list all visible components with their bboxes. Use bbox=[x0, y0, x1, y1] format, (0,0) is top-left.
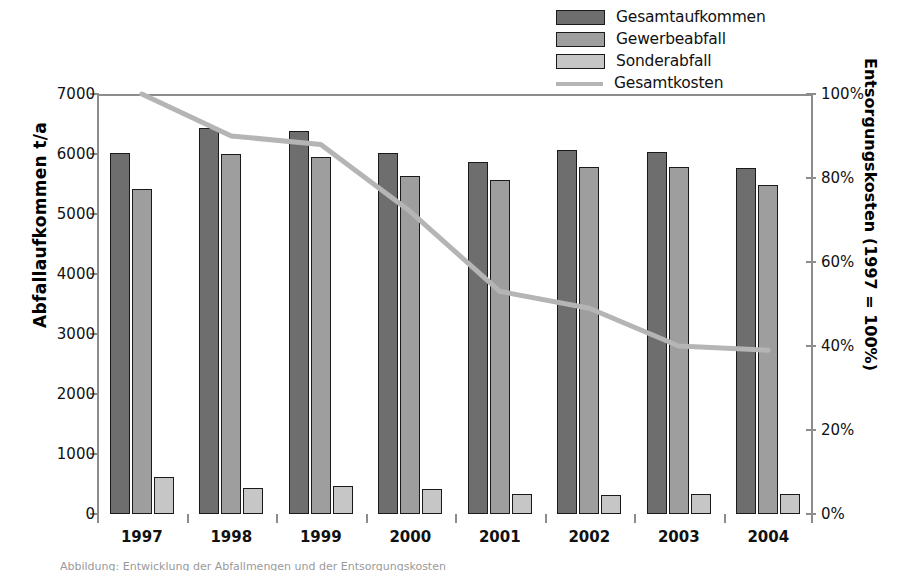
legend-item-label: Gewerbeabfall bbox=[616, 30, 726, 48]
legend-line-icon bbox=[556, 77, 603, 90]
x-tick-label: 2002 bbox=[544, 528, 634, 546]
y-tick-label-right: 80% bbox=[821, 169, 891, 187]
x-tick-label: 2003 bbox=[634, 528, 724, 546]
x-tick-label: 2004 bbox=[723, 528, 813, 546]
legend-item-label: Sonderabfall bbox=[616, 52, 711, 70]
y-tick-label-right: 100% bbox=[821, 85, 891, 103]
y-tick-label-left: 6000 bbox=[25, 145, 95, 163]
x-tick-label: 2000 bbox=[365, 528, 455, 546]
figure-caption: Abbildung: Entwicklung der Abfallmengen … bbox=[60, 560, 860, 571]
legend-item-label: Gesamtkosten bbox=[614, 74, 723, 92]
y-tick-label-left: 2000 bbox=[25, 385, 95, 403]
legend-swatch-icon bbox=[556, 54, 605, 69]
x-tick-label: 1998 bbox=[186, 528, 276, 546]
y-tick-label-right: 0% bbox=[821, 505, 891, 523]
chart-legend: Gesamtaufkommen Gewerbeabfall Sonderabfa… bbox=[556, 6, 856, 94]
legend-item-sonderabfall: Sonderabfall bbox=[556, 50, 856, 72]
y-tick-label-left: 7000 bbox=[25, 85, 95, 103]
x-tick-label: 1999 bbox=[276, 528, 366, 546]
y-tick-label-right: 60% bbox=[821, 253, 891, 271]
y-tick-label-left: 3000 bbox=[25, 325, 95, 343]
legend-item-gesamtkosten: Gesamtkosten bbox=[556, 72, 856, 94]
legend-item-gesamtaufkommen: Gesamtaufkommen bbox=[556, 6, 856, 28]
legend-item-gewerbeabfall: Gewerbeabfall bbox=[556, 28, 856, 50]
x-tick-label: 2001 bbox=[455, 528, 545, 546]
x-tick-label: 1997 bbox=[97, 528, 187, 546]
legend-item-label: Gesamtaufkommen bbox=[616, 8, 766, 26]
y-tick-label-left: 4000 bbox=[25, 265, 95, 283]
y-tick-label-right: 20% bbox=[821, 421, 891, 439]
gesamtkosten-line-path bbox=[142, 94, 769, 350]
y-tick-label-left: 5000 bbox=[25, 205, 95, 223]
line-series-gesamtkosten bbox=[97, 94, 813, 516]
chart-page: Gesamtaufkommen Gewerbeabfall Sonderabfa… bbox=[0, 0, 897, 571]
legend-swatch-icon bbox=[556, 32, 605, 47]
legend-swatch-icon bbox=[556, 10, 605, 25]
y-tick-label-left: 0 bbox=[25, 505, 95, 523]
y-tick-label-left: 1000 bbox=[25, 445, 95, 463]
plot-area: 01000200030004000500060007000 0%20%40%60… bbox=[97, 94, 813, 516]
y-tick-label-right: 40% bbox=[821, 337, 891, 355]
